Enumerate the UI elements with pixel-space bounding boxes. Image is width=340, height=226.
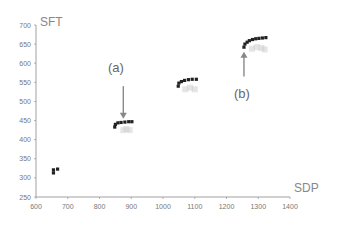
y-tick-label: 350: [19, 155, 31, 162]
data-point: [257, 37, 260, 40]
y-tick-label: 500: [19, 98, 31, 105]
data-points: [52, 36, 268, 175]
x-tick-label: 1400: [282, 203, 298, 210]
y-tick-label: 450: [19, 117, 31, 124]
data-point: [116, 121, 119, 124]
y-tick-label: 700: [19, 22, 31, 29]
data-point: [177, 85, 180, 88]
x-tick-label: 600: [30, 203, 42, 210]
x-tick-label: 1300: [250, 203, 266, 210]
data-point: [123, 120, 126, 123]
shadow-point: [127, 127, 133, 133]
arrow-b-icon: [240, 52, 247, 77]
x-tick-label: 700: [62, 203, 74, 210]
data-point: [52, 171, 55, 174]
data-point: [130, 120, 133, 123]
data-point: [261, 36, 264, 39]
x-tick-label: 1000: [155, 203, 171, 210]
x-tick-label: 800: [94, 203, 106, 210]
data-point: [119, 121, 122, 124]
data-point: [264, 36, 267, 39]
data-point: [52, 168, 55, 171]
y-tick-label: 650: [19, 41, 31, 48]
shadow-point: [192, 86, 198, 92]
data-point: [254, 37, 257, 40]
data-point: [191, 78, 194, 81]
y-tick-label: 550: [19, 79, 31, 86]
data-point: [127, 120, 130, 123]
data-point: [180, 80, 183, 83]
data-point: [251, 38, 254, 41]
y-tick-label: 400: [19, 136, 31, 143]
data-point: [248, 39, 251, 42]
y-tick-label: 250: [19, 194, 31, 201]
data-point: [242, 46, 245, 49]
x-tick-label: 900: [125, 203, 137, 210]
shadow-point: [262, 46, 268, 52]
x-axis-title: SDP: [294, 181, 319, 195]
y-tick-label: 600: [19, 60, 31, 67]
annotation-a-label: (a): [108, 60, 124, 75]
data-point: [183, 79, 186, 82]
x-tick-label: 1200: [219, 203, 235, 210]
x-tick-label: 1100: [187, 203, 202, 210]
data-point: [187, 78, 190, 81]
data-point: [195, 78, 198, 81]
data-point: [56, 167, 59, 170]
y-tick-label: 300: [19, 174, 31, 181]
arrow-a-icon: [120, 86, 127, 118]
annotation-arrows: [120, 52, 248, 119]
y-axis-title: SFT: [40, 15, 63, 29]
scatter-chart: 6007008009001000110012001300140025030035…: [0, 0, 340, 226]
annotation-b-label: (b): [234, 86, 250, 101]
